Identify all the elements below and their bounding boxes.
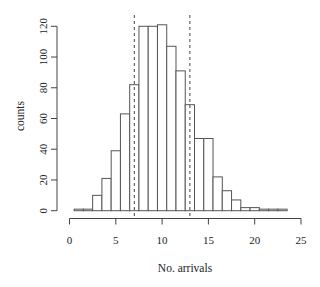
histogram-bar <box>74 209 83 211</box>
y-tick-label: 0 <box>37 207 49 213</box>
histogram-chart: 020406080100120 0510152025 No. arrivals … <box>0 0 320 287</box>
x-tick-label: 25 <box>296 234 308 246</box>
plot-area: 020406080100120 0510152025 No. arrivals … <box>0 0 320 287</box>
histogram-bar <box>83 209 92 211</box>
histogram-bar <box>139 26 148 210</box>
y-axis: 020406080100120 <box>37 18 57 214</box>
histogram-bar <box>269 209 278 211</box>
histogram-bar <box>259 209 268 211</box>
y-tick-label: 100 <box>37 48 49 65</box>
histogram-bar <box>222 191 231 211</box>
histogram-bar <box>167 46 176 210</box>
y-tick-label: 20 <box>37 174 49 186</box>
histogram-bar <box>157 25 166 211</box>
y-tick-label: 80 <box>37 82 49 94</box>
x-tick-label: 0 <box>67 234 73 246</box>
histogram-bar <box>120 114 129 211</box>
histogram-bar <box>278 209 287 211</box>
y-tick-label: 40 <box>37 143 49 155</box>
histogram-bar <box>93 195 102 210</box>
x-tick-label: 10 <box>157 234 169 246</box>
histogram-bars <box>74 25 287 211</box>
x-tick-label: 5 <box>113 234 119 246</box>
histogram-bar <box>213 177 222 211</box>
x-tick-label: 20 <box>249 234 261 246</box>
x-axis: 0510152025 <box>67 219 307 247</box>
histogram-bar <box>111 151 120 211</box>
histogram-bar <box>102 178 111 210</box>
x-tick-label: 15 <box>203 234 215 246</box>
histogram-bar <box>176 71 185 211</box>
histogram-bar <box>148 26 157 210</box>
y-axis-title: counts <box>14 100 26 131</box>
x-axis-title: No. arrivals <box>158 262 213 274</box>
histogram-bar <box>241 208 250 211</box>
y-tick-label: 120 <box>37 18 49 35</box>
y-tick-label: 60 <box>37 113 49 125</box>
histogram-bar <box>195 138 204 210</box>
histogram-bar <box>204 138 213 210</box>
histogram-bar <box>185 105 194 211</box>
histogram-bar <box>232 200 241 211</box>
histogram-bar <box>250 208 259 211</box>
